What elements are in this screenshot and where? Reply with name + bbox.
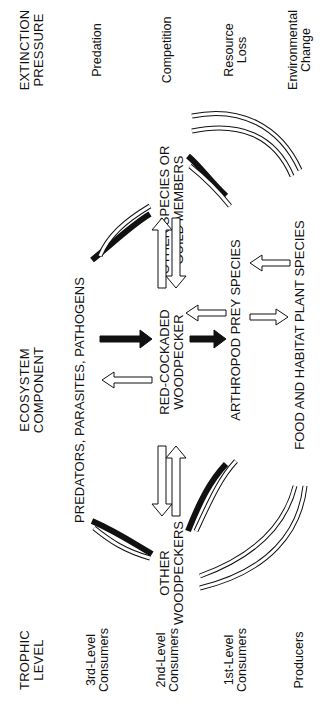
arrows-layer [0,0,334,726]
arrow-plants-to-arthropods-open [250,255,290,271]
arrow-plants-to-other-woodpeckers-open [200,486,295,576]
arrow-arthropods-to-rcw-open [186,305,226,321]
arrow-rcw-to-predators-open [102,372,152,388]
arrow-arthropods-to-other-woodpeckers-solid [188,464,226,531]
arrow-predators-to-rcw-solid [100,330,152,348]
arrow-other-woodpeckers-to-predators-open [94,528,150,558]
arrow-rcw-to-arthropods-solid [190,330,226,348]
rotated-diagram: TROPHIC LEVEL ECOSYSTEM COMPONENT EXTINC… [0,0,334,726]
arrow-arthropods-to-other-species-solid [188,156,226,196]
arrow-arthropods-to-plants-open [250,309,288,325]
